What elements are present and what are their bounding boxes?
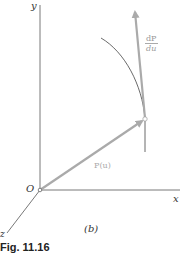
tangent-denominator: du bbox=[145, 44, 158, 53]
tangent-vector-label: dP du bbox=[145, 34, 158, 53]
tangent-numerator: dP bbox=[145, 34, 158, 44]
origin-label: O bbox=[26, 183, 34, 194]
x-axis-label: x bbox=[173, 193, 179, 204]
z-axis-label: z bbox=[0, 229, 5, 239]
figure-caption: Fig. 11.16 bbox=[0, 241, 50, 253]
y-axis-label: y bbox=[31, 0, 37, 11]
origin-point bbox=[38, 188, 42, 192]
position-vector-label: P(u) bbox=[94, 161, 111, 170]
z-axis bbox=[7, 190, 40, 233]
curve-point bbox=[143, 117, 147, 121]
panel-label: (b) bbox=[84, 223, 98, 234]
tangent-vector bbox=[135, 12, 145, 118]
position-vector bbox=[40, 121, 142, 190]
